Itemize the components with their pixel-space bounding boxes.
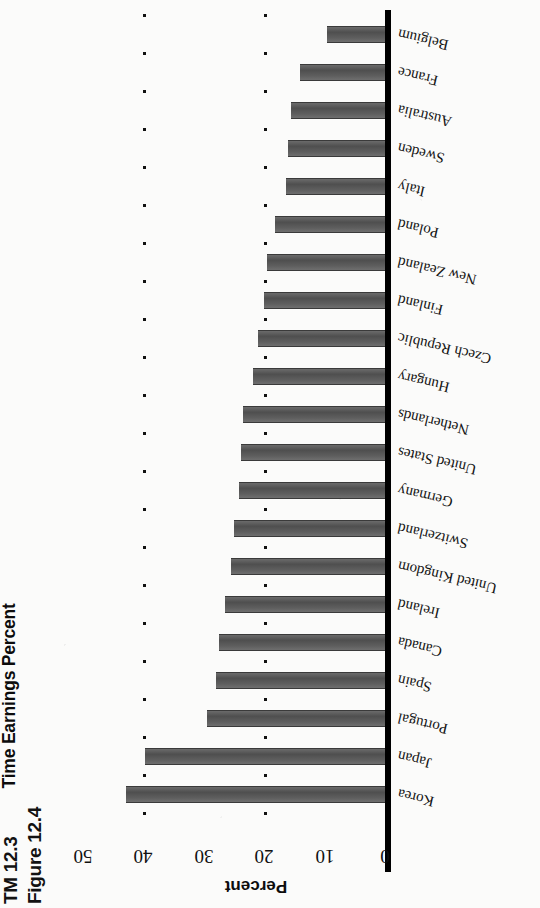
gridline-dot	[264, 318, 267, 321]
gridline-dot	[143, 432, 146, 435]
gridline-dot	[264, 242, 267, 245]
gridline-dot	[143, 128, 146, 131]
gridline-dot	[264, 470, 267, 473]
tick-label: 40	[126, 845, 160, 867]
gridline-dot	[143, 394, 146, 397]
chart-title-text: Female Wage Gap: Difference Between Fema…	[0, 288, 20, 788]
gridline-dot	[143, 622, 146, 625]
chart-title: Female Wage Gap: Difference Between Fema…	[20, 0, 64, 908]
gridline-dot	[143, 204, 146, 207]
gridline-dot	[264, 622, 267, 625]
tm-number-label: TM 12.3	[0, 836, 22, 904]
gridline-dot	[264, 356, 267, 359]
gridline-dot	[143, 52, 146, 55]
gridline-dot	[143, 698, 146, 701]
gridline-dot	[264, 394, 267, 397]
gridline-dot	[264, 584, 267, 587]
tick-label: 30	[187, 845, 221, 867]
gridline-dot	[264, 90, 267, 93]
gridline-dot	[143, 318, 146, 321]
tick-label: 10	[308, 845, 342, 867]
gridline-dot	[264, 698, 267, 701]
tick-label: 0	[368, 845, 402, 867]
tick-label: 20	[247, 845, 281, 867]
gridline-dot	[264, 280, 267, 283]
gridline-dot	[143, 546, 146, 549]
gridline-dot	[143, 280, 146, 283]
gridline-dot	[143, 812, 146, 815]
gridline-dot	[264, 812, 267, 815]
figure-number-label: Figure 12.4	[24, 807, 46, 904]
gridline-dot	[264, 166, 267, 169]
gridline-dot	[143, 584, 146, 587]
gridline-dot	[264, 660, 267, 663]
gridline-dot	[264, 14, 267, 17]
gridline-dot	[264, 52, 267, 55]
gridline-dot	[143, 90, 146, 93]
gridline-dot	[143, 508, 146, 511]
gridline-dot	[143, 166, 146, 169]
gridline-dot	[264, 432, 267, 435]
gridline-dot	[143, 242, 146, 245]
gridline-dot	[143, 470, 146, 473]
bar-chart-plot-area: 01020304050 BelgiumFranceAustraliaSweden…	[0, 0, 540, 908]
gridline-dot	[264, 546, 267, 549]
gridline-dot	[143, 14, 146, 17]
gridline-dot	[264, 204, 267, 207]
gridline-dot	[264, 128, 267, 131]
tick-label: 50	[66, 845, 100, 867]
gridline-dot	[264, 774, 267, 777]
gridline-dot	[264, 736, 267, 739]
gridline-dot	[143, 356, 146, 359]
value-axis-title: Percent	[196, 876, 316, 896]
gridline-dot	[143, 774, 146, 777]
gridline-dot	[264, 508, 267, 511]
page-corner-labels: TM 12.3 Figure 12.4	[0, 788, 60, 908]
gridline-dot	[143, 736, 146, 739]
gridline-dot	[143, 660, 146, 663]
